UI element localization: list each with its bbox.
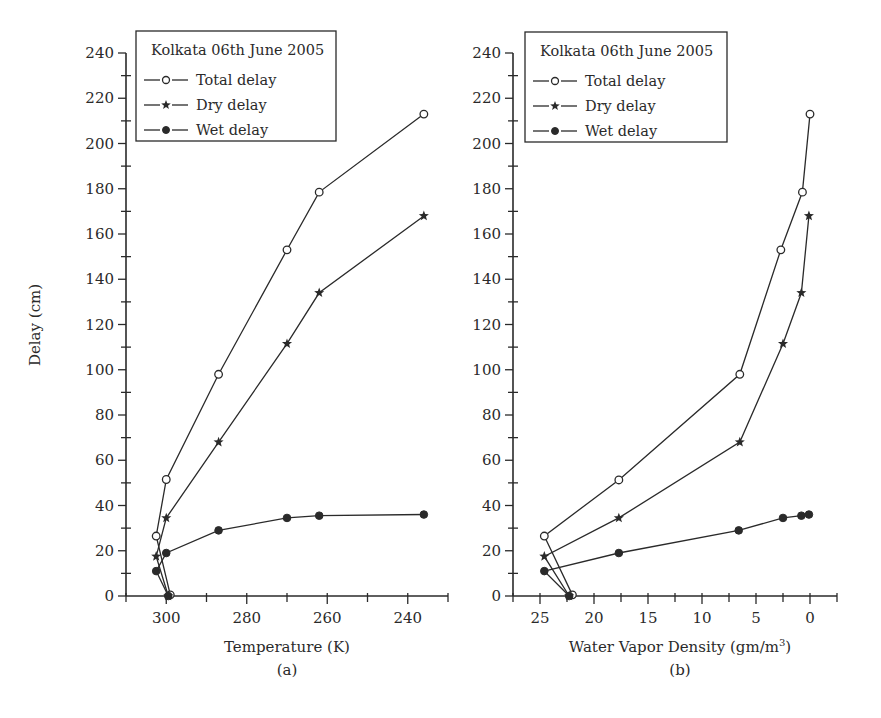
filled-circle-marker <box>798 512 806 520</box>
y-tick-label: 180 <box>85 180 114 198</box>
y-tick-label: 0 <box>104 587 114 605</box>
x-tick-label: 15 <box>638 609 657 627</box>
panel-caption: (a) <box>277 661 298 679</box>
open-circle-marker <box>315 188 323 196</box>
x-tick-label: 280 <box>232 609 261 627</box>
legend-label: Total delay <box>196 72 277 88</box>
open-circle-marker <box>615 476 623 484</box>
y-tick-label: 120 <box>472 316 501 334</box>
x-tick-label: 25 <box>530 609 549 627</box>
y-tick-label: 180 <box>472 180 501 198</box>
y-axis-label: Delay (cm) <box>26 284 44 366</box>
star-marker <box>539 551 549 561</box>
open-circle-marker <box>806 110 814 118</box>
star-marker <box>778 338 788 348</box>
y-tick-label: 120 <box>85 316 114 334</box>
filled-circle-marker <box>615 549 623 557</box>
filled-circle-marker <box>541 567 549 575</box>
x-tick-label: 0 <box>805 609 815 627</box>
open-circle-marker <box>777 246 785 254</box>
y-tick-label: 100 <box>472 361 501 379</box>
x-tick-label: 5 <box>751 609 761 627</box>
filled-circle-marker <box>164 592 172 600</box>
y-tick-label: 80 <box>482 406 501 424</box>
legend-title: Kolkata 06th June 2005 <box>540 43 713 59</box>
y-tick-label: 20 <box>482 542 501 560</box>
open-circle-marker <box>420 110 428 118</box>
y-tick-label: 140 <box>472 270 501 288</box>
y-tick-label: 160 <box>472 225 501 243</box>
x-tick-label: 240 <box>393 609 422 627</box>
open-circle-marker <box>736 370 744 378</box>
star-marker <box>796 288 806 298</box>
legend: Kolkata 06th June 2005Total delayDry del… <box>525 32 727 142</box>
open-circle-marker <box>163 77 170 84</box>
filled-circle-marker <box>152 567 160 575</box>
star-marker <box>614 513 624 523</box>
filled-circle-marker <box>805 511 813 519</box>
series-line <box>156 216 424 596</box>
y-tick-label: 20 <box>95 542 114 560</box>
legend-label: Wet delay <box>585 123 658 139</box>
x-axis-label: Temperature (K) <box>224 638 350 656</box>
star-marker <box>161 513 171 523</box>
x-tick-label: 300 <box>152 609 181 627</box>
x-tick-label: 10 <box>692 609 711 627</box>
legend-title: Kolkata 06th June 2005 <box>151 42 324 58</box>
y-tick-label: 140 <box>85 270 114 288</box>
chart-panel-a: 0204060801001201401601802002202403002802… <box>26 31 448 679</box>
open-circle-marker <box>162 476 170 484</box>
chart-panel-b: 0204060801001201401601802002202402520151… <box>472 32 837 679</box>
filled-circle-marker <box>163 127 170 134</box>
y-tick-label: 240 <box>472 44 501 62</box>
legend-label: Total delay <box>585 73 666 89</box>
legend-label: Dry delay <box>585 98 657 114</box>
y-tick-label: 100 <box>85 361 114 379</box>
filled-circle-marker <box>283 514 291 522</box>
x-tick-label: 20 <box>584 609 603 627</box>
filled-circle-marker <box>552 128 559 135</box>
series-total-delay <box>541 110 814 598</box>
filled-circle-marker <box>215 527 223 535</box>
open-circle-marker <box>152 532 160 540</box>
y-tick-label: 220 <box>472 89 501 107</box>
x-axis-label: Water Vapor Density (gm/m3) <box>569 637 791 656</box>
figure: 0204060801001201401601802002202403002802… <box>0 0 881 718</box>
y-tick-label: 40 <box>95 497 114 515</box>
star-marker <box>314 288 324 298</box>
star-marker <box>214 437 224 447</box>
legend-label: Wet delay <box>196 122 269 138</box>
open-circle-marker <box>541 532 549 540</box>
series-wet-delay <box>152 511 427 600</box>
series-wet-delay <box>541 511 813 600</box>
filled-circle-marker <box>565 592 573 600</box>
filled-circle-marker <box>779 514 787 522</box>
y-tick-label: 240 <box>85 44 114 62</box>
series-line <box>156 114 424 595</box>
y-tick-label: 220 <box>85 89 114 107</box>
y-tick-label: 200 <box>85 135 114 153</box>
y-tick-label: 80 <box>95 406 114 424</box>
legend: Kolkata 06th June 2005Total delayDry del… <box>136 31 336 141</box>
open-circle-marker <box>215 370 223 378</box>
y-tick-label: 0 <box>491 587 501 605</box>
filled-circle-marker <box>735 527 743 535</box>
y-tick-label: 160 <box>85 225 114 243</box>
filled-circle-marker <box>162 549 170 557</box>
filled-circle-marker <box>420 511 428 519</box>
series-line <box>544 216 809 596</box>
star-marker <box>282 338 292 348</box>
open-circle-marker <box>552 78 559 85</box>
x-tick-label: 260 <box>313 609 342 627</box>
y-tick-label: 200 <box>472 135 501 153</box>
panel-caption: (b) <box>669 661 690 679</box>
y-tick-label: 40 <box>482 497 501 515</box>
series-line <box>544 114 810 595</box>
series-line <box>544 515 809 597</box>
open-circle-marker <box>799 188 807 196</box>
filled-circle-marker <box>315 512 323 520</box>
legend-label: Dry delay <box>196 97 268 113</box>
y-tick-label: 60 <box>95 451 114 469</box>
series-total-delay <box>152 110 427 598</box>
y-tick-label: 60 <box>482 451 501 469</box>
